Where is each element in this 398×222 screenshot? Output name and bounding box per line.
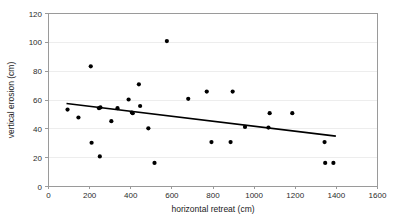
y-axis-tick-labels: 020406080100120: [29, 10, 43, 192]
x-tick-label: 200: [83, 191, 97, 200]
data-point: [209, 140, 213, 144]
x-tick-label: 800: [206, 191, 220, 200]
y-tick-label: 60: [33, 96, 42, 105]
data-point: [268, 111, 272, 115]
x-tick-label: 1400: [327, 191, 345, 200]
data-point: [290, 111, 294, 115]
data-point: [76, 115, 80, 119]
y-axis-title: vertical erosion (cm): [6, 62, 16, 139]
data-point: [137, 82, 141, 86]
data-point: [98, 154, 102, 158]
data-point: [152, 161, 156, 165]
y-tick-label: 80: [33, 67, 42, 76]
x-tick-label: 1200: [286, 191, 304, 200]
y-tick-label: 40: [33, 125, 42, 134]
x-tick-label: 0: [46, 191, 51, 200]
data-point: [205, 89, 209, 93]
x-tick-label: 600: [165, 191, 179, 200]
y-tick-label: 20: [33, 154, 42, 163]
data-point: [127, 97, 131, 101]
y-tick-label: 0: [38, 183, 43, 192]
y-tick-label: 100: [29, 38, 43, 47]
data-point: [89, 64, 93, 68]
data-point: [89, 141, 93, 145]
x-tick-label: 1000: [245, 191, 263, 200]
chart-canvas: 020406080100120 020040060080010001200140…: [0, 0, 398, 222]
data-point: [109, 119, 113, 123]
x-axis-title: horizontal retreat (cm): [171, 204, 254, 214]
data-point: [231, 89, 235, 93]
y-axis-ticks: [45, 14, 48, 187]
x-tick-label: 1600: [369, 191, 387, 200]
data-point: [65, 107, 69, 111]
trend-line-segment: [67, 104, 336, 137]
scatter-chart: 020406080100120 020040060080010001200140…: [0, 0, 398, 222]
data-point: [186, 97, 190, 101]
data-point: [323, 161, 327, 165]
data-point: [146, 126, 150, 130]
data-point: [165, 39, 169, 43]
x-axis-tick-labels: 02004006008001000120014001600: [46, 191, 387, 200]
data-point: [228, 140, 232, 144]
trend-line: [67, 104, 336, 137]
data-point: [138, 104, 142, 108]
y-tick-label: 120: [29, 10, 43, 19]
data-point: [331, 161, 335, 165]
data-point: [322, 140, 326, 144]
x-tick-label: 400: [124, 191, 138, 200]
data-points: [65, 39, 335, 165]
